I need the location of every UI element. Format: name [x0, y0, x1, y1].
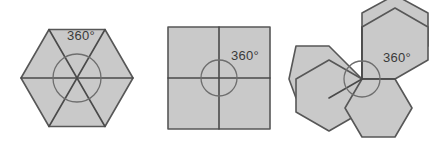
diagram-square-four-quadrants: 360°: [168, 27, 270, 129]
angles-around-a-point-illustration: 360° 360° 360°: [0, 0, 441, 158]
square-angle-label: 360°: [231, 48, 259, 63]
diagram-three-hexagons-at-point: 360°: [289, 0, 428, 137]
hexagon-angle-label: 360°: [67, 28, 95, 43]
geometry-figure-board: 360° 360° 360°: [0, 0, 441, 158]
three-hexagons-angle-label: 360°: [383, 50, 411, 65]
diagram-hexagon-six-triangles: 360°: [21, 28, 133, 127]
